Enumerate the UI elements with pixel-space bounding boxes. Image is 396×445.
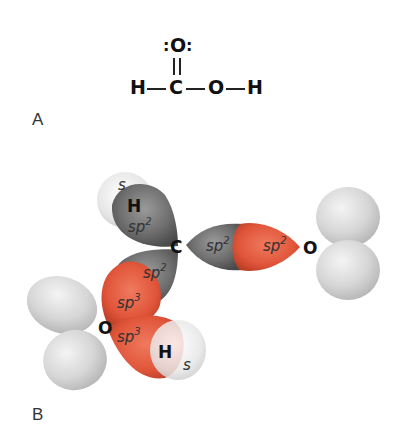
atom-right-hydrogen: H	[247, 78, 263, 97]
atom-h-top: H	[127, 196, 141, 216]
panel-label-b: B	[32, 405, 43, 425]
bond-c-o	[186, 88, 205, 90]
atom-top-oxygen: O	[170, 36, 186, 55]
label-h-top-s: s	[118, 176, 126, 194]
lewis-structure: : O : H C O H	[0, 0, 396, 110]
atom-c: C	[170, 237, 182, 257]
orbital-diagram: H C O O H s sp2 sp2 sp2 sp2 sp3 sp3 s	[0, 160, 396, 410]
atom-h-bottom: H	[158, 342, 172, 362]
atom-carbon: C	[169, 78, 183, 97]
label-h-bottom-s: s	[183, 356, 191, 374]
atom-left-hydrogen: H	[130, 78, 146, 97]
panel-label-a: A	[32, 110, 43, 130]
lone-pair-left: :	[163, 36, 169, 55]
bond-h-c	[147, 88, 166, 90]
double-bond-line-1	[173, 58, 175, 75]
o-right-lone-pairs	[316, 187, 380, 300]
bond-o-h	[226, 88, 245, 90]
lone-pair-right: :	[186, 36, 192, 55]
atom-o-right: O	[303, 238, 317, 258]
atom-o-left: O	[98, 318, 112, 338]
atom-right-oxygen: O	[208, 78, 224, 97]
double-bond-line-2	[179, 58, 181, 75]
